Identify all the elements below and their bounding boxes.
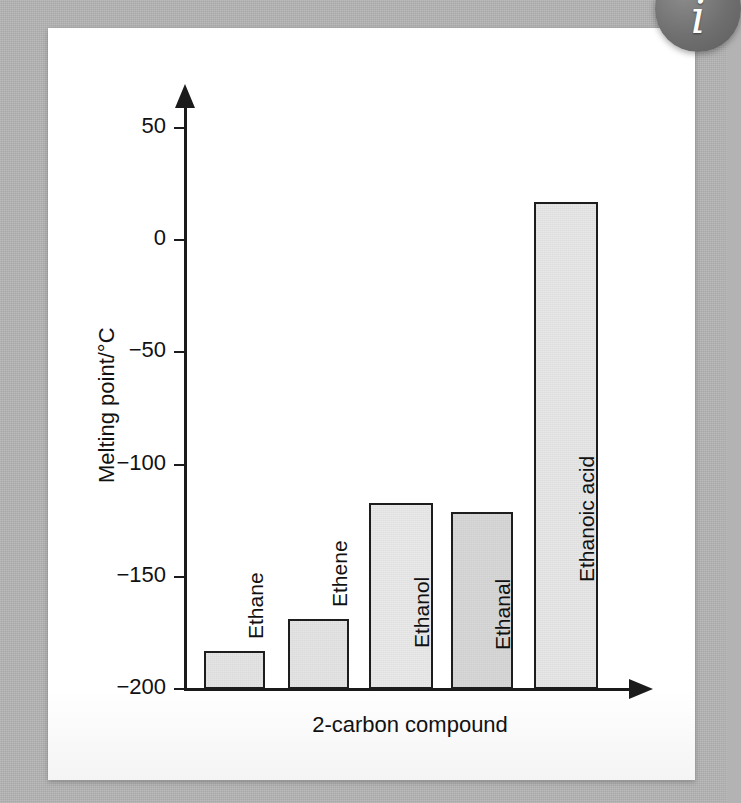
figure-panel-surface	[48, 28, 695, 780]
info-badge-glyph: i	[691, 0, 706, 40]
figure-panel	[48, 28, 695, 780]
